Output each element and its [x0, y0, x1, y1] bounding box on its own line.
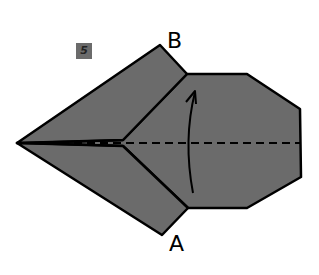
- point-label-b: B: [167, 30, 182, 52]
- origami-diagram: [0, 0, 319, 275]
- step-number-badge: 5: [76, 43, 92, 59]
- point-label-a: A: [169, 233, 184, 255]
